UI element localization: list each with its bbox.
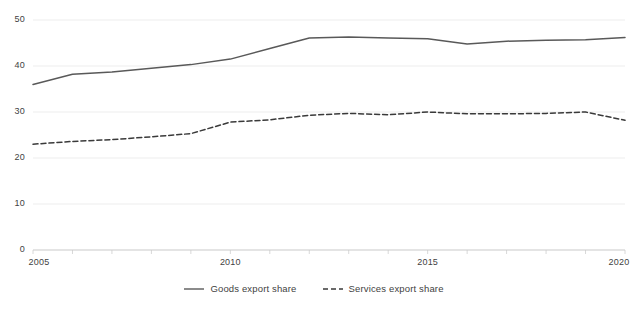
gridlines-group bbox=[33, 20, 625, 204]
x-axis-tick-label: 2015 bbox=[408, 257, 448, 267]
chart-legend: Goods export share Services export share bbox=[0, 283, 628, 294]
series-line-services-export-share bbox=[33, 112, 625, 144]
y-axis-tick-label: 30 bbox=[3, 106, 25, 116]
x-axis-tick-label: 2020 bbox=[599, 257, 634, 267]
legend-label-goods-export-share: Goods export share bbox=[210, 283, 296, 294]
legend-swatch-dashed-line bbox=[323, 284, 343, 294]
series-line-goods-export-share bbox=[33, 37, 625, 84]
legend-label-services-export-share: Services export share bbox=[349, 283, 444, 294]
legend-item-services-export-share[interactable]: Services export share bbox=[323, 283, 444, 294]
x-axis-tick-label: 2005 bbox=[19, 257, 59, 267]
y-axis-tick-label: 50 bbox=[3, 14, 25, 24]
legend-item-goods-export-share[interactable]: Goods export share bbox=[184, 283, 296, 294]
y-axis-tick-label: 10 bbox=[3, 198, 25, 208]
y-axis-tick-label: 0 bbox=[3, 244, 25, 254]
y-axis-tick-label: 20 bbox=[3, 152, 25, 162]
x-axis-tick-label: 2010 bbox=[210, 257, 250, 267]
x-axis-ticks-group bbox=[33, 250, 625, 254]
legend-swatch-solid-line bbox=[184, 284, 204, 294]
y-axis-tick-label: 40 bbox=[3, 60, 25, 70]
data-series-group bbox=[33, 37, 625, 144]
